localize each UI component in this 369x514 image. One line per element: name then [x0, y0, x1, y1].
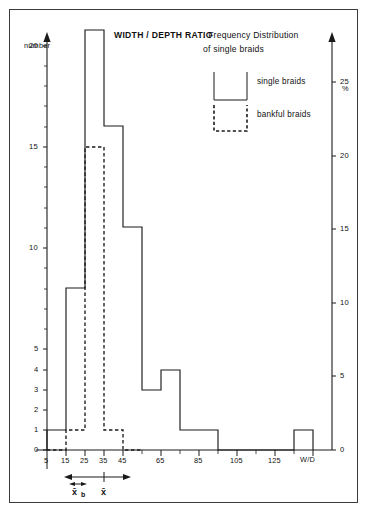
- x-tick-125: 125: [268, 456, 281, 465]
- y-tick-left-20: 20: [29, 41, 38, 50]
- y-tick-left-0: 0: [34, 445, 38, 454]
- x-tick-5: 5: [44, 456, 48, 465]
- y-tick-left-2: 2: [34, 405, 38, 414]
- y-tick-left-4: 4: [34, 365, 38, 374]
- y-tick-left-5: 5: [34, 344, 38, 353]
- x-tick-25: 25: [80, 456, 89, 465]
- x-tick-105: 105: [230, 456, 243, 465]
- y-tick-right-5: 5: [340, 371, 344, 380]
- y-tick-left-1: 1: [34, 425, 38, 434]
- y-axis-left: [43, 32, 51, 450]
- y-axis-right: [328, 32, 336, 450]
- y-tick-left-3: 3: [34, 385, 38, 394]
- y-tick-right-25: 25: [340, 77, 349, 86]
- chart-canvas: WIDTH / DEPTH RATIO . Frequency Distribu…: [0, 0, 369, 514]
- y-tick-right-15: 15: [340, 224, 349, 233]
- y-tick-right-10: 10: [340, 298, 349, 307]
- series-bankful-braids: [47, 147, 142, 450]
- y-tick-left-10: 10: [29, 243, 38, 252]
- mean-range-annotation: [64, 472, 131, 486]
- mean-single-symbol: x̄: [101, 487, 106, 497]
- x-tick-15: 15: [61, 456, 70, 465]
- mean-bankful-symbol: x̄: [72, 487, 77, 497]
- x-tick-45: 45: [118, 456, 127, 465]
- x-tick-85: 85: [194, 456, 203, 465]
- y-tick-right-20: 20: [340, 151, 349, 160]
- series-single-braids: [47, 30, 313, 450]
- x-tick-35: 35: [99, 456, 108, 465]
- mean-bankful-subscript: b: [81, 491, 85, 498]
- x-tick-65: 65: [156, 456, 165, 465]
- y-tick-left-15: 15: [29, 142, 38, 151]
- chart-axes-and-data: [0, 0, 369, 514]
- y-tick-right-0: 0: [340, 445, 344, 454]
